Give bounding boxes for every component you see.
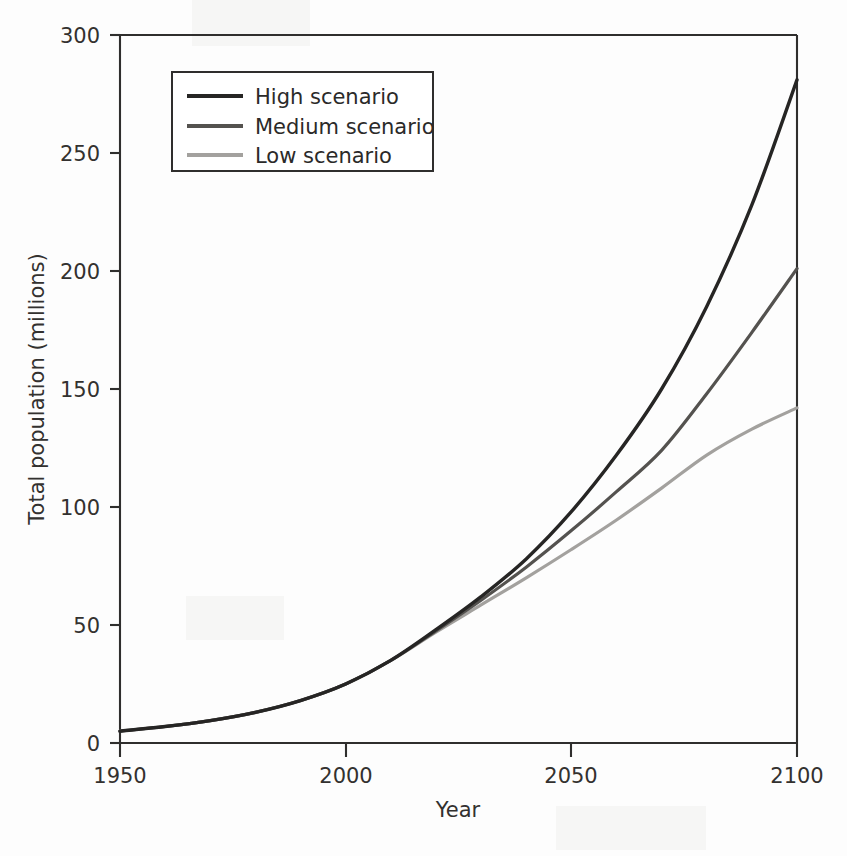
x-tick-label-2050: 2050 [544, 764, 597, 788]
figure-canvas: 300 250 200 150 100 50 0 1950 2000 2050 … [0, 0, 847, 856]
population-projection-chart: 300 250 200 150 100 50 0 1950 2000 2050 … [0, 0, 847, 856]
y-tick-label-250: 250 [60, 142, 100, 166]
series-group [120, 80, 797, 731]
y-axis-tick-labels: 300 250 200 150 100 50 0 [60, 24, 100, 756]
y-tick-label-50: 50 [73, 614, 100, 638]
y-axis-title: Total population (millions) [25, 253, 49, 525]
x-tick-label-2100: 2100 [770, 764, 823, 788]
y-axis-ticks [110, 35, 120, 743]
y-tick-label-200: 200 [60, 260, 100, 284]
series-line-medium [120, 269, 797, 732]
x-tick-label-2000: 2000 [319, 764, 372, 788]
legend-label-low: Low scenario [255, 144, 392, 168]
legend-label-medium: Medium scenario [255, 115, 435, 139]
y-tick-label-0: 0 [87, 732, 100, 756]
y-tick-label-150: 150 [60, 378, 100, 402]
chart-legend[interactable]: High scenario Medium scenario Low scenar… [172, 72, 435, 171]
x-axis-tick-labels: 1950 2000 2050 2100 [93, 764, 823, 788]
x-tick-label-1950: 1950 [93, 764, 146, 788]
legend-label-high: High scenario [255, 85, 399, 109]
series-line-low [120, 408, 797, 731]
y-tick-label-100: 100 [60, 496, 100, 520]
x-axis-ticks [120, 743, 797, 757]
y-tick-label-300: 300 [60, 24, 100, 48]
x-axis-title: Year [435, 798, 481, 822]
series-line-high [120, 80, 797, 731]
